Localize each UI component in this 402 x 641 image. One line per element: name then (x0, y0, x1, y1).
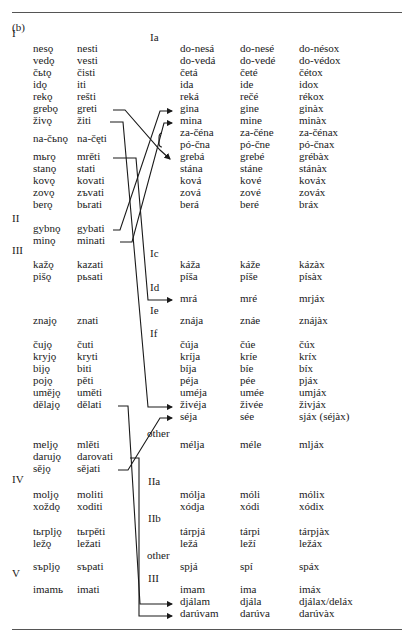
form-col-1: mrá (180, 292, 197, 304)
form-col-2: darúva (240, 607, 270, 619)
infinitive-form: sъpati (77, 560, 103, 572)
infinitive-form: imati (77, 583, 100, 595)
present-form: idǫ (33, 78, 47, 90)
form-col-1: za-čéna (180, 126, 214, 138)
present-form: zovǫ (33, 186, 54, 198)
infinitive-form: zъvati (77, 186, 104, 198)
infinitive-form: uměti (77, 386, 102, 398)
form-col-3: spáx (299, 560, 319, 572)
form-col-2: káže (240, 258, 260, 270)
form-col-2: ide (240, 78, 253, 90)
form-col-1: djálam (180, 595, 210, 607)
form-col-2: djála (240, 595, 261, 607)
form-col-2: leží (240, 537, 256, 549)
form-col-1: stána (180, 162, 203, 174)
form-col-1: uméja (180, 386, 207, 398)
present-form: vedǫ (33, 54, 54, 66)
form-col-3: darúvàx (299, 607, 334, 619)
form-col-2: píše (240, 270, 258, 282)
form-col-3: djálax/deláx (299, 595, 353, 607)
form-col-2: tárpi (240, 525, 260, 537)
form-col-1: zová (180, 186, 201, 198)
form-col-3: stánàx (299, 162, 327, 174)
infinitive-form: minati (77, 234, 105, 246)
form-col-1: káža (180, 258, 200, 270)
arrow-ziti-ziveja (110, 122, 172, 407)
form-col-3: písàx (299, 270, 322, 282)
form-col-3: bíx (299, 362, 313, 374)
present-form: ležǫ (33, 537, 51, 549)
form-col-3: čúx (299, 338, 315, 350)
form-col-1: ková (180, 174, 201, 186)
infinitive-form: kazati (77, 258, 103, 270)
infinitive-form: iti (77, 78, 86, 90)
form-col-1: znája (180, 314, 203, 326)
form-col-2: méle (240, 438, 261, 450)
class-label: other (147, 427, 170, 439)
infinitive-form: dělati (77, 398, 101, 410)
infinitive-form: čuti (77, 338, 94, 350)
class-label: IIa (148, 475, 160, 487)
form-col-2: grebé (240, 150, 264, 162)
form-col-2: za-čéne (240, 126, 274, 138)
form-col-1: reká (180, 90, 199, 102)
present-form: meljǫ (33, 438, 58, 450)
present-form: minǫ (33, 234, 56, 246)
form-col-2: pó-čne (240, 138, 270, 150)
present-form: nesǫ (33, 42, 53, 54)
present-form: xoždǫ (33, 500, 60, 512)
present-form: znajǫ (33, 314, 57, 326)
form-col-3: do-védox (299, 54, 341, 66)
form-col-1: péja (180, 374, 198, 386)
top-rule (12, 12, 402, 13)
infinitive-form: na-čęti (77, 132, 107, 144)
infinitive-form: moliti (77, 488, 103, 500)
infinitive-form: mlěti (77, 438, 100, 450)
infinitive-form: gybati (77, 222, 105, 234)
section-label: IV (12, 473, 24, 485)
form-col-3: čétox (299, 66, 323, 78)
form-col-1: mólja (180, 488, 205, 500)
form-col-1: xódja (180, 500, 204, 512)
form-col-1: kríja (180, 350, 200, 362)
form-col-3: ginàx (299, 102, 323, 114)
form-col-3: mljáx (299, 438, 324, 450)
arrow-gybati-gina (113, 111, 172, 230)
section-label: I (12, 27, 16, 39)
form-col-3: ležáx (299, 537, 322, 549)
infinitive-form: kryti (77, 350, 98, 362)
class-label: III (148, 572, 159, 584)
form-col-3: živjáx (299, 398, 326, 410)
infinitive-form: ležati (77, 537, 101, 549)
form-col-2: četé (240, 66, 258, 78)
form-col-3: minàx (299, 114, 327, 126)
class-label: Ic (150, 247, 159, 259)
form-col-2: gine (240, 102, 259, 114)
present-form: rekǫ (33, 90, 53, 102)
infinitive-form: biti (77, 362, 92, 374)
present-form: berǫ (33, 198, 53, 210)
present-form: kovǫ (33, 174, 55, 186)
form-col-3: kováx (299, 174, 326, 186)
form-col-3: znájàx (299, 314, 328, 326)
form-col-2: do-nesé (240, 42, 274, 54)
form-col-1: bíja (180, 362, 197, 374)
form-col-3: kázàx (299, 258, 325, 270)
form-col-1: tárpjá (180, 525, 205, 537)
infinitive-form: greti (77, 102, 97, 114)
present-form: sějǫ (33, 462, 51, 474)
infinitive-form: darovati (77, 450, 113, 462)
form-col-3: umjáx (299, 386, 327, 398)
infinitive-form: tьrpěti (77, 525, 105, 537)
class-label: Ie (150, 304, 159, 316)
present-form: darujǫ (33, 450, 61, 462)
infinitive-form: nesti (77, 42, 98, 54)
present-form: bijǫ (33, 362, 50, 374)
present-form: dělajǫ (33, 398, 60, 410)
form-col-1: mina (180, 114, 202, 126)
class-label: other (147, 549, 170, 561)
form-col-2: móli (240, 488, 260, 500)
infinitive-form: xoditi (77, 500, 103, 512)
form-col-3: sjáx (séjàx) (299, 410, 349, 422)
present-form: grebǫ (33, 102, 58, 114)
